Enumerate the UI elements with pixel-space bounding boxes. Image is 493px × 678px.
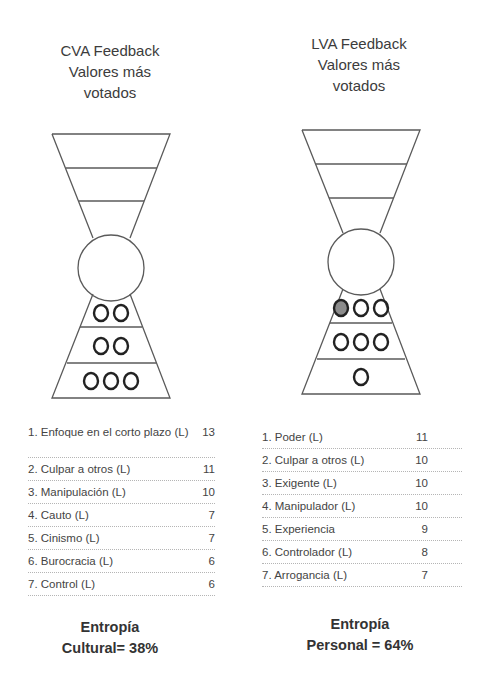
lva-lower-pyramid [302, 289, 420, 394]
lva-value-circle [374, 334, 388, 350]
value-label: 5. Experiencia [262, 518, 422, 540]
table-row: 5. Cinismo (L) 7 [28, 527, 215, 550]
lva-title: LVA Feedback Valores más votados [284, 33, 434, 96]
entropy-value: Cultural= 38% [35, 638, 185, 659]
table-row: 2. Culpar a otros (L) 11 [28, 458, 215, 481]
cva-value-circle [124, 373, 138, 389]
lva-value-circle [374, 300, 388, 316]
value-votes: 8 [422, 541, 462, 560]
cva-values-table: 1. Enfoque en el corto plazo (L) 13 2. C… [28, 421, 215, 596]
table-row: 6. Controlador (L) 8 [262, 541, 462, 564]
table-row: 6. Burocracia (L) 6 [28, 550, 215, 573]
value-label: 4. Manipulador (L) [262, 495, 415, 517]
cva-value-circle [114, 338, 128, 354]
value-votes: 10 [415, 449, 462, 468]
lva-title-line-3: votados [284, 75, 434, 96]
cva-upper-funnel [52, 134, 170, 238]
lva-title-line-2: Valores más [284, 54, 434, 75]
value-votes: 11 [416, 426, 462, 445]
value-label: 2. Culpar a otros (L) [262, 449, 415, 471]
value-label: 1. Enfoque en el corto plazo (L) [28, 421, 202, 443]
lva-center-circle [328, 229, 394, 295]
table-row: 1. Enfoque en el corto plazo (L) 13 [28, 421, 215, 458]
value-label: 4. Cauto (L) [28, 504, 209, 526]
table-row: 3. Manipulación (L) 10 [28, 481, 215, 504]
value-votes: 7 [422, 564, 462, 583]
cva-value-circle [84, 373, 98, 389]
value-label: 7. Control (L) [28, 573, 209, 595]
value-votes: 10 [415, 495, 462, 514]
lva-value-circle [354, 334, 368, 350]
value-votes: 7 [209, 527, 215, 546]
lva-value-circle [354, 300, 368, 316]
entropy-heading: Entropía [280, 614, 440, 635]
personal-entropy-label: Entropía Personal = 64% [280, 614, 440, 656]
table-row: 3. Exigente (L) 10 [262, 472, 462, 495]
value-label: 7. Arrogancia (L) [262, 564, 422, 586]
value-votes: 11 [203, 458, 215, 477]
value-votes: 10 [202, 481, 215, 500]
table-row: 2. Culpar a otros (L) 10 [262, 449, 462, 472]
value-votes: 9 [422, 518, 462, 537]
entropy-heading: Entropía [35, 617, 185, 638]
table-row: 1. Poder (L) 11 [262, 426, 462, 449]
value-votes: 6 [209, 573, 215, 592]
table-row: 4. Cauto (L) 7 [28, 504, 215, 527]
lva-title-line-1: LVA Feedback [284, 33, 434, 54]
cva-center-circle [78, 235, 144, 301]
value-votes: 7 [209, 504, 215, 523]
cva-value-circle [114, 305, 128, 321]
lva-upper-funnel [302, 130, 420, 233]
lva-value-circle-filled [334, 300, 348, 316]
table-row: 7. Arrogancia (L) 7 [262, 564, 462, 587]
value-label: 3. Exigente (L) [262, 472, 415, 494]
lva-value-circle [334, 334, 348, 350]
value-votes: 6 [209, 550, 215, 569]
table-row: 5. Experiencia 9 [262, 518, 462, 541]
value-label: 5. Cinismo (L) [28, 527, 209, 549]
values-comparison-figure: CVA Feedback Valores más votados [0, 0, 493, 678]
value-votes: 13 [202, 421, 215, 440]
cva-value-circle [104, 373, 118, 389]
value-label: 2. Culpar a otros (L) [28, 458, 203, 480]
cva-value-circle [94, 338, 108, 354]
value-label: 3. Manipulación (L) [28, 481, 202, 503]
table-row: 4. Manipulador (L) 10 [262, 495, 462, 518]
table-row: 7. Control (L) 6 [28, 573, 215, 596]
value-votes: 10 [415, 472, 462, 491]
cva-lower-pyramid [52, 294, 170, 398]
entropy-value: Personal = 64% [280, 635, 440, 656]
value-label: 6. Burocracia (L) [28, 550, 209, 572]
cultural-entropy-label: Entropía Cultural= 38% [35, 617, 185, 659]
lva-value-circle [354, 369, 368, 385]
lva-values-table: 1. Poder (L) 11 2. Culpar a otros (L) 10… [262, 426, 462, 587]
value-label: 1. Poder (L) [262, 426, 416, 448]
value-label: 6. Controlador (L) [262, 541, 422, 563]
cva-value-circle [94, 305, 108, 321]
